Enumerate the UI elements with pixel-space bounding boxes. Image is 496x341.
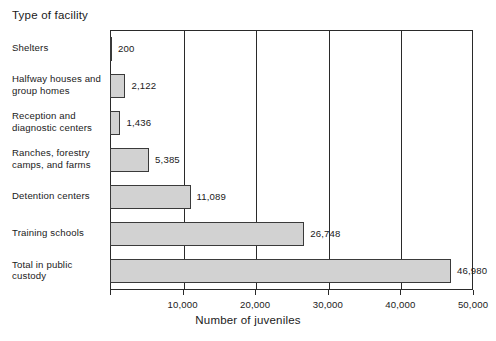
x-tick-mark (328, 290, 329, 295)
category-label-line: Total in public (12, 259, 108, 271)
x-axis-title: Number of juveniles (0, 314, 496, 326)
bar-value-label: 26,748 (310, 229, 340, 239)
x-tick-label: 10,000 (167, 299, 197, 310)
bar (110, 111, 120, 135)
bar-value-label: 2,122 (131, 81, 156, 91)
category-label: Halfway houses andgroup homes (12, 73, 108, 97)
category-label: Shelters (12, 42, 108, 54)
category-label-line: Training schools (12, 227, 108, 239)
gridline (184, 31, 185, 289)
gridline (329, 31, 330, 289)
y-axis-title: Type of facility (12, 9, 88, 21)
x-tick-label: 30,000 (313, 299, 343, 310)
category-label: Training schools (12, 227, 108, 239)
category-label: Detention centers (12, 190, 108, 202)
bar (110, 37, 112, 61)
x-tick-mark (400, 290, 401, 295)
x-tick-mark (473, 290, 474, 295)
category-label-line: Ranches, forestry (12, 147, 108, 159)
bar (110, 74, 125, 98)
bar-value-label: 200 (118, 44, 134, 54)
category-label-line: group homes (12, 85, 108, 97)
bar (110, 222, 304, 246)
category-label-line: Shelters (12, 42, 108, 54)
category-label: Total in publiccustody (12, 259, 108, 283)
x-tick-mark (183, 290, 184, 295)
x-tick-label: 40,000 (385, 299, 415, 310)
bar (110, 259, 451, 283)
gridline (256, 31, 257, 289)
category-label: Reception anddiagnostic centers (12, 110, 108, 134)
category-label-line: camps, and farms (12, 159, 108, 171)
gridline (401, 31, 402, 289)
x-tick-mark (110, 290, 111, 295)
bar-chart: Type of facility 200Shelters2,122Halfway… (0, 0, 496, 341)
bar-value-label: 5,385 (155, 155, 180, 165)
category-label-line: Reception and (12, 110, 108, 122)
x-tick-label: 50,000 (458, 299, 488, 310)
bar-value-label: 1,436 (126, 118, 151, 128)
bar (110, 148, 149, 172)
x-tick-mark (255, 290, 256, 295)
bar-value-label: 11,089 (197, 192, 227, 202)
category-label-line: Detention centers (12, 190, 108, 202)
category-label-line: diagnostic centers (12, 122, 108, 134)
x-tick-label: 20,000 (240, 299, 270, 310)
bar (110, 185, 191, 209)
category-label-line: custody (12, 270, 108, 282)
bar-value-label: 46,980 (457, 266, 487, 276)
category-label: Ranches, forestrycamps, and farms (12, 147, 108, 171)
category-label-line: Halfway houses and (12, 73, 108, 85)
